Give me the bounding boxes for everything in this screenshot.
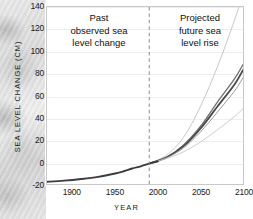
x-tick-1900: 1900 <box>57 188 87 197</box>
y-tick-100: 100 <box>18 47 44 56</box>
y-tick-40: 40 <box>18 114 44 123</box>
annotation-future-line-1: Projected <box>156 12 244 25</box>
annotation-past-line-2: observed sea <box>56 25 142 38</box>
series-line-2 <box>149 65 243 164</box>
x-axis-title: YEAR <box>0 203 253 212</box>
y-tick-20: 20 <box>18 136 44 145</box>
annotation-past-observed: Past observed sea level change <box>56 12 142 50</box>
annotation-future-line-3: level rise <box>156 37 244 50</box>
annotation-future-line-2: future sea <box>156 25 244 38</box>
annotation-past-line-3: level change <box>56 37 142 50</box>
series-line-3 <box>149 70 243 163</box>
x-tick-2050: 2050 <box>186 188 216 197</box>
y-tick-0: 0 <box>18 159 44 168</box>
series-line-0 <box>47 161 158 181</box>
x-tick-2100: 2100 <box>229 188 253 197</box>
annotation-projected-future: Projected future sea level rise <box>156 12 244 50</box>
x-tick-2000: 2000 <box>143 188 173 197</box>
y-tick-60: 60 <box>18 92 44 101</box>
x-tick-1950: 1950 <box>100 188 130 197</box>
x-axis-tick-labels: 19001950200020502100 <box>0 188 253 202</box>
y-axis-title: SEA LEVEL CHANGE (CM) <box>13 37 22 157</box>
y-tick-80: 80 <box>18 69 44 78</box>
chart-figure: -20020406080100120140 190019502000205021… <box>0 0 253 219</box>
y-tick-120: 120 <box>18 24 44 33</box>
annotation-past-line-1: Past <box>56 12 142 25</box>
y-tick-140: 140 <box>18 2 44 11</box>
